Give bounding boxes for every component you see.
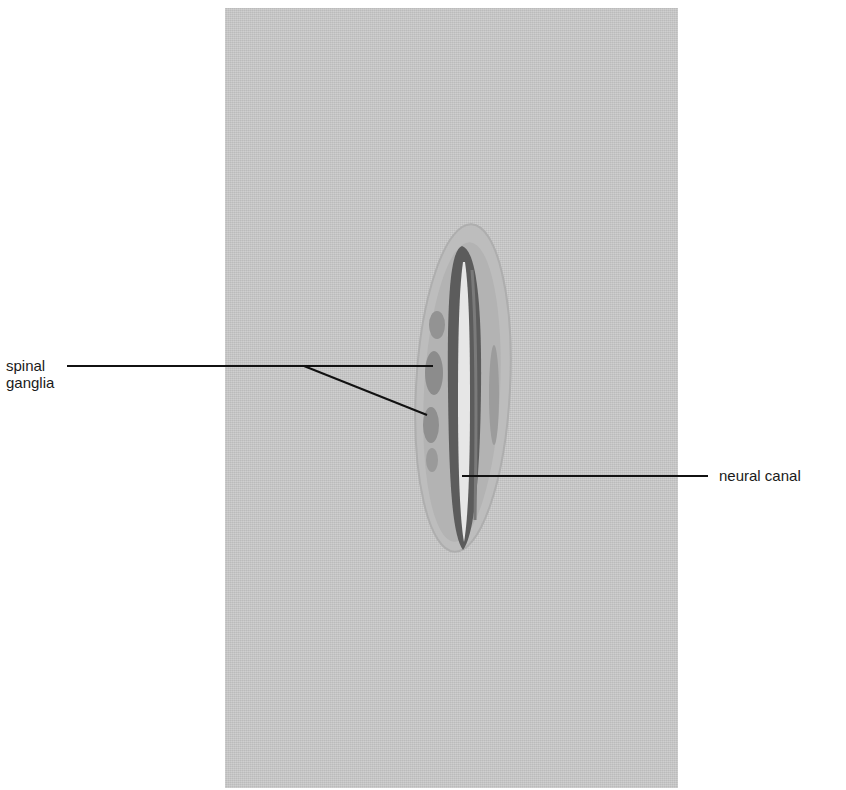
right-tissue-band: [489, 345, 499, 445]
spinal-ganglion-upper: [429, 311, 445, 339]
spinal-ganglion-bottom: [426, 448, 438, 472]
micrograph-figure: spinal ganglia neural canal: [0, 0, 846, 790]
spinal-ganglia-label: spinal ganglia: [6, 357, 54, 391]
spinal-ganglion-lower: [423, 407, 439, 443]
spinal-ganglia-label-line2: ganglia: [6, 374, 54, 391]
spinal-ganglion-middle: [425, 351, 443, 395]
spinal-ganglia-label-line1: spinal: [6, 357, 54, 374]
neural-canal-label: neural canal: [719, 467, 801, 484]
specimen-illustration: [0, 0, 846, 790]
spinal-ganglia-branch-line: [304, 366, 427, 415]
